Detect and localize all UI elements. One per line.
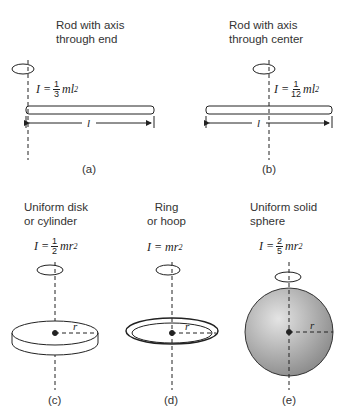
sphere-figure — [245, 262, 333, 390]
caption-e: (e) — [282, 394, 296, 406]
formula-d: I = mr2 — [147, 240, 182, 255]
radius-label-e: r — [310, 319, 315, 331]
formula-a: I =13ml2 — [36, 80, 78, 99]
formula-b: I =112ml2 — [274, 80, 319, 99]
title-b: Rod with axisthrough center — [229, 18, 303, 46]
length-label-a: l — [87, 117, 90, 129]
formula-c: I =12mr2 — [34, 237, 77, 256]
disk-figure — [12, 262, 98, 390]
radius-label-d: r — [185, 320, 190, 332]
caption-d: (d) — [164, 394, 178, 406]
ring-figure — [126, 262, 218, 390]
radius-label-c: r — [73, 320, 78, 332]
caption-a: (a) — [82, 163, 96, 175]
length-label-b: l — [257, 117, 260, 129]
rod-center-figure — [206, 60, 332, 160]
title-a: Rod with axisthrough end — [56, 18, 124, 46]
title-d: Ringor hoop — [147, 200, 186, 228]
rod-end-figure — [12, 60, 154, 160]
caption-c: (c) — [48, 394, 61, 406]
formula-e: I =25mr2 — [259, 237, 302, 256]
title-e: Uniform solidsphere — [250, 200, 317, 228]
title-c: Uniform diskor cylinder — [24, 200, 88, 228]
caption-b: (b) — [262, 163, 276, 175]
